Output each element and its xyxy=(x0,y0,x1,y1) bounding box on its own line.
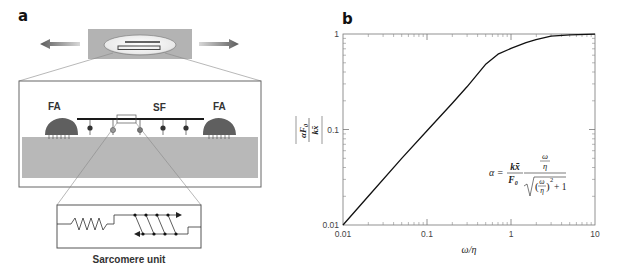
y-tick-0: 0.01 xyxy=(322,220,339,230)
zoom-line-right xyxy=(165,53,261,81)
formula-coef-den-sub: 0 xyxy=(515,180,518,186)
data-curve xyxy=(343,34,595,225)
panel-a: a xyxy=(18,7,261,265)
left-pull-arrow-icon xyxy=(40,39,80,49)
y-label-num: αF xyxy=(298,127,308,138)
y-label-den: kx̄ xyxy=(310,125,320,135)
x-tick-labels: 0.01 0.1 1 10 xyxy=(335,229,600,239)
formula-lhs: α = xyxy=(489,167,504,178)
formula-annotation: α = kx̄ F0 ω η ( ω η ) 2 + 1 xyxy=(489,151,567,196)
x-major-ticks xyxy=(427,34,511,225)
label-sf: SF xyxy=(153,102,166,113)
panel-b-letter: b xyxy=(342,10,353,28)
x-tick-1: 0.1 xyxy=(421,229,433,239)
x-tick-3: 10 xyxy=(590,229,600,239)
cell-overview xyxy=(40,29,239,59)
x-tick-0: 0.01 xyxy=(335,229,352,239)
y-tick-labels: 0.01 0.1 1 xyxy=(322,29,339,230)
panel-a-letter: a xyxy=(18,7,28,25)
y-minor-ticks xyxy=(343,38,595,196)
substrate-band xyxy=(22,137,258,178)
formula-num-top: ω xyxy=(542,151,548,161)
sarcomere-unit-box xyxy=(57,205,201,248)
panel-b: b 0.01 0.1 xyxy=(296,10,600,255)
formula-num-bot: η xyxy=(543,161,547,171)
y-tick-2: 1 xyxy=(334,29,339,39)
formula-coef-num: kx̄ xyxy=(510,162,520,172)
figure-canvas: a xyxy=(0,0,618,271)
x-axis-label: ω/η xyxy=(462,244,477,255)
y-label-sub: 0 xyxy=(303,124,309,127)
label-fa-left: FA xyxy=(48,101,61,112)
y-tick-1: 0.1 xyxy=(327,125,339,135)
formula-den-tail: + 1 xyxy=(554,182,567,192)
plot-frame xyxy=(343,34,595,225)
svg-text:αF0: αF0 xyxy=(298,124,309,138)
formula-den-bot: η xyxy=(540,186,544,195)
formula-den-exp: 2 xyxy=(550,176,553,183)
zoom-line-left xyxy=(19,53,113,81)
sarcomere-caption: Sarcomere unit xyxy=(93,254,166,265)
formula-den-top: ω xyxy=(539,177,544,186)
x-minor-ticks xyxy=(368,34,591,225)
svg-text:F0: F0 xyxy=(507,175,517,186)
stress-fiber-box: FA SF FA xyxy=(19,81,261,187)
cell-body xyxy=(104,35,176,55)
x-tick-2: 1 xyxy=(509,229,514,239)
right-pull-arrow-icon xyxy=(199,39,239,49)
label-fa-right: FA xyxy=(213,101,226,112)
sarcomere-frame xyxy=(57,205,201,248)
y-axis-label: αF0 kx̄ xyxy=(296,116,322,144)
